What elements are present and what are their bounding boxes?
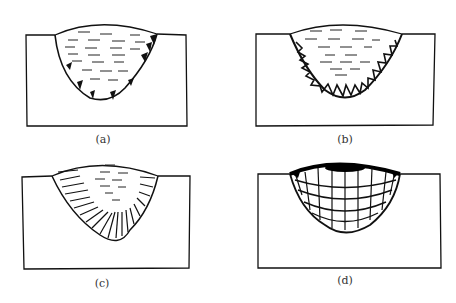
panel-label-b: (b) bbox=[325, 133, 365, 146]
weld-cross-section-d bbox=[0, 150, 456, 303]
panel-d: (d) bbox=[0, 150, 456, 303]
panel-b: (b) bbox=[0, 0, 456, 150]
panel-label-d: (d) bbox=[325, 274, 365, 287]
weld-cross-section-b bbox=[0, 0, 456, 150]
